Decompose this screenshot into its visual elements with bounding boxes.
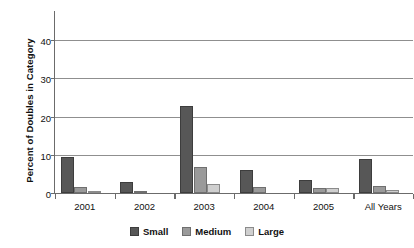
x-tick-mark (294, 194, 295, 199)
legend-item-small[interactable]: Small (130, 226, 168, 237)
legend-item-medium[interactable]: Medium (182, 226, 231, 237)
y-tick-label: 30 (11, 74, 51, 85)
legend-item-large[interactable]: Large (245, 226, 284, 237)
bar-medium (194, 167, 207, 193)
bar-large (207, 184, 220, 193)
x-tick-mark (234, 194, 235, 199)
chart-legend: SmallMediumLarge (0, 226, 414, 237)
bar-large (326, 188, 339, 193)
x-tick-label: 2001 (55, 201, 115, 212)
bar-medium (134, 191, 147, 193)
y-tick-label: 0 (11, 189, 51, 200)
x-tick-mark (174, 194, 175, 199)
bar-medium (313, 188, 326, 193)
bar-group (174, 21, 234, 193)
bar-group (353, 21, 413, 193)
legend-label: Large (258, 226, 284, 237)
x-tick-mark (115, 194, 116, 199)
bar-small (61, 157, 74, 193)
legend-swatch-icon (130, 227, 139, 236)
bar-group (115, 21, 175, 193)
y-axis-title: Percent of Doubles in Category (24, 21, 35, 201)
x-tick-label: 2004 (234, 201, 294, 212)
bar-medium (253, 187, 266, 193)
x-tick-mark (353, 194, 354, 199)
bar-small (180, 106, 193, 193)
x-tick-label: 2003 (174, 201, 234, 212)
x-tick-label: All Years (353, 201, 413, 212)
legend-label: Small (143, 226, 168, 237)
bar-group (55, 21, 115, 193)
bar-large (386, 190, 399, 193)
y-tick-label: 10 (11, 150, 51, 161)
bar-small (120, 182, 133, 193)
bar-group (234, 21, 294, 193)
legend-swatch-icon (245, 227, 254, 236)
bar-medium (74, 187, 87, 193)
bar-small (240, 170, 253, 193)
legend-label: Medium (195, 226, 231, 237)
legend-swatch-icon (182, 227, 191, 236)
y-tick-label: 40 (11, 36, 51, 47)
x-tick-mark (55, 194, 56, 199)
x-tick-label: 2005 (294, 201, 354, 212)
plot-area: 010203040 (55, 22, 413, 194)
bar-large (88, 191, 101, 193)
bar-small (299, 180, 312, 193)
bar-group (294, 21, 354, 193)
x-tick-label: 2002 (115, 201, 175, 212)
bar-chart: Percent of Doubles in Category 010203040… (0, 0, 414, 248)
bar-small (359, 159, 372, 193)
y-tick-label: 20 (11, 112, 51, 123)
bar-medium (373, 186, 386, 193)
